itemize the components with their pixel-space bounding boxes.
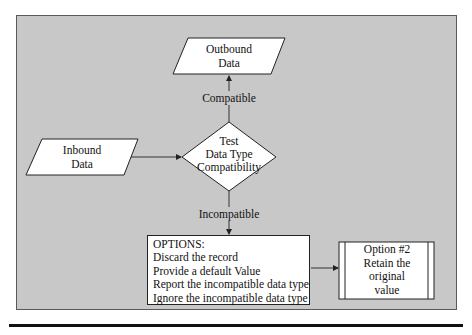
option2-line-2: Retain the [346, 257, 428, 271]
inbound-data-label: Inbound Data [34, 143, 130, 171]
option2-line-3: original [346, 270, 428, 284]
outbound-data-label: Outbound Data [180, 42, 278, 70]
option2-label: Option #2 Retain the original value [346, 243, 428, 297]
options-box: OPTIONS: Discard the record Provide a de… [147, 235, 310, 305]
edge-label-incompatible: Incompatible [198, 207, 261, 221]
option2-line-4: value [346, 284, 428, 298]
outbound-line-2: Data [180, 56, 278, 70]
option-item: Ignore the incompatible data type [153, 292, 309, 305]
inbound-line-2: Data [34, 157, 130, 171]
inbound-line-1: Inbound [34, 143, 130, 157]
decision-line-2: Data Type [186, 148, 272, 161]
option2-line-1: Option #2 [346, 243, 428, 257]
options-title: OPTIONS: [153, 238, 309, 251]
outbound-line-1: Outbound [180, 42, 278, 56]
option-item: Discard the record [153, 251, 309, 264]
decision-line-3: Compatibility [186, 161, 272, 174]
option-item: Report the incompatible data type [153, 278, 309, 291]
option-item: Provide a default Value [153, 265, 309, 278]
bottom-rule-divider [9, 324, 463, 327]
decision-label: Test Data Type Compatibility [186, 135, 272, 174]
edge-label-compatible: Compatible [201, 91, 257, 105]
decision-line-1: Test [186, 135, 272, 148]
